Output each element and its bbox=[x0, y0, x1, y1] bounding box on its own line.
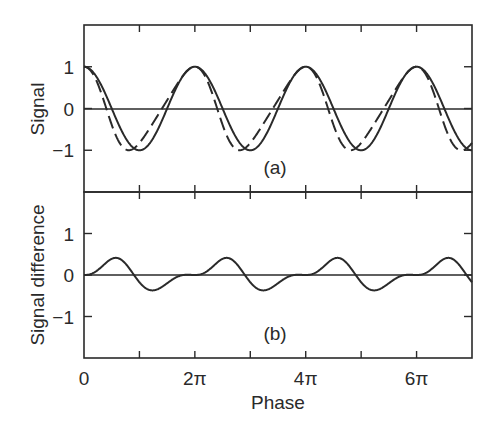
panel-a-y-axis-title: Signal bbox=[27, 83, 48, 136]
panel-b-y-tick-labels: 10−1 bbox=[52, 224, 74, 328]
y-tick-label: 0 bbox=[63, 99, 74, 120]
x-axis-title: Phase bbox=[251, 392, 305, 413]
panel-b-label: (b) bbox=[263, 323, 286, 344]
y-tick-label: 1 bbox=[63, 57, 74, 78]
panel-b-y-axis-title: Signal difference bbox=[27, 204, 48, 345]
y-tick-label: 1 bbox=[63, 224, 74, 245]
panel-a-y-tick-labels: 10−1 bbox=[52, 57, 74, 162]
x-axis-tick-labels: 02π4π6π bbox=[79, 368, 429, 389]
y-tick-label: 0 bbox=[63, 265, 74, 286]
y-tick-label: −1 bbox=[52, 140, 74, 161]
y-tick-label: −1 bbox=[52, 307, 74, 328]
x-tick-label: 2π bbox=[183, 368, 207, 389]
x-tick-label: 0 bbox=[79, 368, 90, 389]
x-tick-label: 4π bbox=[294, 368, 318, 389]
panel-a-label: (a) bbox=[263, 157, 286, 178]
signal-difference-line bbox=[84, 258, 472, 291]
figure: 10−1 Signal (a) 10−1 Signal difference (… bbox=[0, 0, 499, 436]
panel-a-signal: 10−1 Signal (a) bbox=[27, 25, 472, 192]
panel-b-signal-difference: 10−1 Signal difference (b) bbox=[27, 192, 472, 358]
x-tick-label: 6π bbox=[405, 368, 429, 389]
